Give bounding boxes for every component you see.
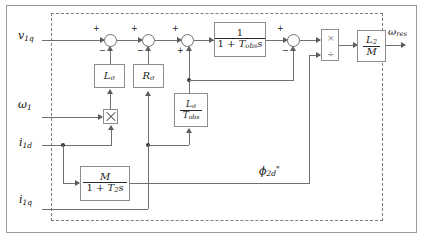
wire-i1q-input xyxy=(42,209,148,210)
arrow-i1d-into-multiplier xyxy=(108,125,114,130)
block-l2-numerator: L2 xyxy=(363,35,380,47)
wire-i1d-junction-to-l-sigma-t-obs xyxy=(148,145,189,146)
summer-4-plus-sign: + xyxy=(277,25,284,33)
block-l2-denominator: M xyxy=(363,46,379,57)
arrow-into-product-bottom xyxy=(316,52,321,58)
arrow-output-omega-res xyxy=(401,42,406,48)
input-label-i1d: i1d xyxy=(19,137,32,149)
wire-i1d-to-r-sigma xyxy=(148,92,149,145)
wire-feedback-to-summer4 xyxy=(189,80,294,81)
block-rotor-flux-numerator: M xyxy=(97,172,113,182)
wire-i1q-up-to-junction xyxy=(148,145,149,209)
arrow-into-l-sigma-t-obs xyxy=(186,128,192,133)
arrow-into-r-sigma xyxy=(145,91,151,96)
block-l-sigma-label: Lσ xyxy=(104,70,115,82)
summer-4 xyxy=(287,34,300,47)
block-product-divide: × ÷ xyxy=(321,29,339,61)
arrow-l-sigma-into-summer1 xyxy=(107,46,113,51)
wire-l-sigma-t-obs-to-summer3 xyxy=(189,47,190,93)
summer-2-plus-sign: + xyxy=(131,25,138,33)
summer-1 xyxy=(104,34,117,47)
signal-label-phi2d-ref: ϕ2d* xyxy=(259,165,280,178)
block-obs-lag: 1 1 + Tobss xyxy=(214,22,266,57)
block-diagram-canvas: v1q ω1 i1d i1q ωres ϕ2d* + − + − + + 1 1… xyxy=(0,0,424,239)
block-multiplier xyxy=(103,109,118,124)
block-l-sigma: Lσ xyxy=(94,64,125,88)
block-l-sigma-t-obs-denominator: Tobs xyxy=(180,110,203,121)
summer-3-plus-sign: + xyxy=(172,25,179,33)
input-label-v1q: v1q xyxy=(18,30,34,42)
summer-4-minus-sign: − xyxy=(282,47,289,55)
summer-3 xyxy=(181,34,194,47)
block-r-sigma: Rσ xyxy=(133,64,164,88)
block-obs-lag-denominator: 1 + Tobss xyxy=(215,38,266,51)
arrow-into-l-sigma xyxy=(107,89,113,94)
wire-i1d-to-multiplier-leg xyxy=(63,145,112,146)
summer-1-plus-sign: + xyxy=(93,25,100,33)
block-l-sigma-t-obs-numerator: Lσ xyxy=(183,100,199,110)
product-divide-divide-op: ÷ xyxy=(327,50,335,59)
wire-i1d-down-to-flux xyxy=(63,145,64,183)
summer-2 xyxy=(142,34,155,47)
arrow-r-sigma-into-summer2 xyxy=(145,46,151,51)
summer-2-minus-sign: − xyxy=(137,47,144,55)
block-obs-lag-numerator: 1 xyxy=(234,28,246,38)
block-l-sigma-t-obs: Lσ Tobs xyxy=(174,93,208,127)
arrow-feedback-into-summer4 xyxy=(290,46,296,51)
input-label-i1q: i1q xyxy=(19,194,32,206)
block-r-sigma-label: Rσ xyxy=(142,70,154,82)
output-label-omega-res: ωres xyxy=(388,27,407,38)
summer-1-minus-sign: − xyxy=(99,47,106,55)
product-divide-multiply-op: × xyxy=(327,34,335,43)
block-l2-over-m: L2 M xyxy=(357,30,386,62)
wire-v1q-to-summer1 xyxy=(42,40,104,41)
block-rotor-flux: M 1 + T2s xyxy=(80,166,130,201)
wire-omega1-to-multiplier xyxy=(42,117,102,118)
summer-3-plus-sign-bottom: + xyxy=(177,47,184,55)
wire-phi2d-up-to-divide xyxy=(309,55,310,183)
block-rotor-flux-denominator: 1 + T2s xyxy=(83,182,126,195)
input-label-omega1: ω1 xyxy=(18,99,32,111)
wire-feedback-up-to-summer4 xyxy=(293,47,294,80)
wire-flux-to-divide xyxy=(130,183,310,184)
arrow-into-summer3-bottom xyxy=(186,46,192,51)
